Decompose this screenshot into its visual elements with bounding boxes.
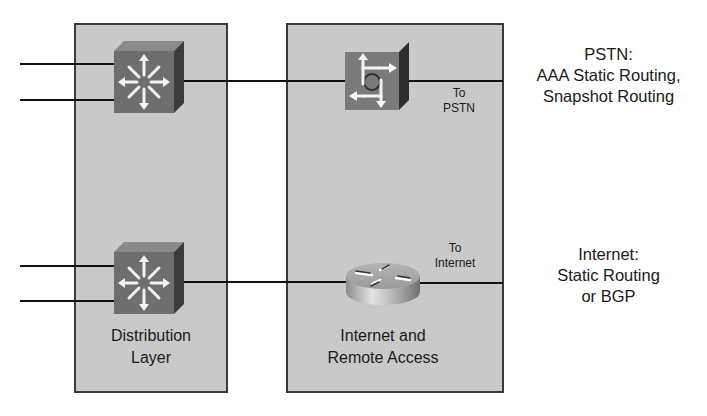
link-label-to-pstn: To PSTN xyxy=(428,86,490,116)
annotation-line: PSTN: xyxy=(510,44,707,65)
distribution-layer-label: Distribution Layer xyxy=(76,325,226,369)
zone-label-line: Remote Access xyxy=(288,347,478,369)
zone-label-line: Internet and xyxy=(288,325,478,347)
access-link-top-1 xyxy=(20,63,115,65)
multilayer-switch-icon xyxy=(112,240,184,314)
link-switch-to-access-server xyxy=(182,80,347,82)
access-link-bottom-1 xyxy=(20,265,115,267)
access-link-bottom-2 xyxy=(20,300,115,302)
link-label-line: Internet xyxy=(422,256,488,271)
link-label-line: To xyxy=(422,241,488,256)
annotation-line: or BGP xyxy=(510,286,707,307)
zone-label-line: Distribution xyxy=(76,325,226,347)
access-link-top-2 xyxy=(20,99,115,101)
annotation-line: Internet: xyxy=(510,244,707,265)
multilayer-switch-icon xyxy=(112,39,184,113)
annotation-line: Static Routing xyxy=(510,265,707,286)
link-label-line: To xyxy=(428,86,490,101)
annotation-line: AAA Static Routing, xyxy=(510,65,707,86)
link-switch-to-router xyxy=(182,281,347,283)
zone-label-line: Layer xyxy=(76,347,226,369)
link-label-line: PSTN xyxy=(428,101,490,116)
router-icon xyxy=(344,258,422,308)
access-server-icon xyxy=(343,40,409,112)
link-access-server-to-pstn xyxy=(405,80,503,82)
annotation-line: Snapshot Routing xyxy=(510,86,707,107)
pstn-routing-annotation: PSTN: AAA Static Routing, Snapshot Routi… xyxy=(510,44,707,107)
internet-remote-access-label: Internet and Remote Access xyxy=(288,325,478,369)
link-router-to-internet xyxy=(418,282,503,284)
link-label-to-internet: To Internet xyxy=(422,241,488,271)
internet-routing-annotation: Internet: Static Routing or BGP xyxy=(510,244,707,307)
